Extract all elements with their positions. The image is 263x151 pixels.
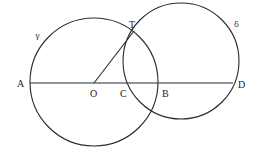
label-point-o: O (90, 88, 97, 99)
circle-delta (123, 3, 239, 119)
label-point-a: A (17, 78, 25, 89)
label-delta: δ (234, 20, 239, 29)
label-point-d: D (238, 79, 245, 90)
label-gamma: γ (35, 31, 40, 40)
segment-ot (94, 31, 134, 83)
circle-gamma (30, 18, 158, 146)
label-point-c: C (120, 88, 127, 99)
geometry-diagram: γ δ A O C B D T (0, 0, 263, 151)
label-point-b: B (162, 88, 169, 99)
label-point-t: T (129, 19, 135, 30)
